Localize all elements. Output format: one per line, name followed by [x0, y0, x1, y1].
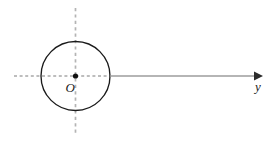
origin-label: O — [66, 80, 76, 95]
axis-label-y: y — [253, 79, 261, 94]
geometry-diagram-svg: O y — [0, 0, 273, 145]
origin-point-dot — [73, 73, 78, 78]
geometry-figure-canvas: O y — [0, 0, 273, 145]
